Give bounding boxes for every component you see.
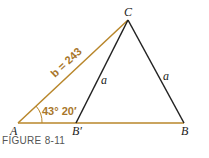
side-a-right bbox=[128, 20, 184, 123]
label-a-left: a bbox=[101, 73, 107, 87]
label-a-right: a bbox=[163, 69, 169, 83]
vertex-b-prime: B′ bbox=[72, 124, 82, 138]
side-a-left bbox=[76, 20, 128, 123]
vertex-b: B bbox=[181, 124, 189, 138]
label-b: b = 243 bbox=[48, 45, 84, 79]
vertex-c: C bbox=[124, 5, 133, 19]
angle-label: 43° 20′ bbox=[42, 105, 77, 117]
figure-caption: FIGURE 8-11 bbox=[2, 135, 65, 146]
